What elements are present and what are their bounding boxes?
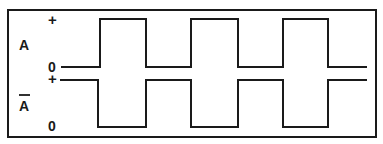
signal-a-high-label: + [48,11,57,28]
signal-abar-name-label: A [19,98,29,114]
signal-a-waveform [61,19,367,67]
signal-abar-low-label: 0 [48,118,56,134]
signal-a-name-label: A [19,37,29,53]
signal-abar-waveform [60,80,367,127]
signal-abar-high-label: + [48,70,57,87]
timing-diagram: + A 0 + A 0 [0,0,383,144]
